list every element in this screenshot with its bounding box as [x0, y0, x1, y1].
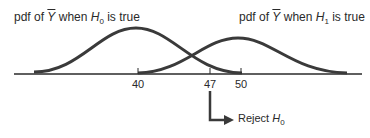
tick-label-47: 47: [204, 78, 216, 90]
tick-label-40: 40: [132, 78, 144, 90]
reject-h0-label: Reject H0: [238, 112, 285, 127]
label-pdf-h1: pdf of Y when H1 is true: [239, 10, 365, 26]
tick-label-50: 50: [235, 78, 247, 90]
pdf-curve-h1: [138, 38, 347, 73]
label-pdf-h0: pdf of Y when H0 is true: [14, 10, 140, 26]
arrow-head-icon: [224, 115, 234, 125]
pdf-curve-h0: [34, 28, 242, 73]
reject-arrow: [210, 91, 225, 120]
